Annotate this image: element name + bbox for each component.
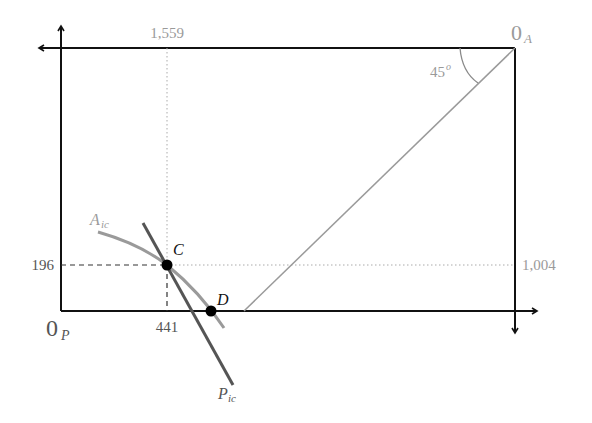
angle-arc <box>460 48 478 83</box>
svg-text:o: o <box>446 61 451 72</box>
top-x-value-label: 1,559 <box>150 25 184 41</box>
a-ic-label: A ic <box>89 211 109 230</box>
point-d-label: D <box>216 291 229 308</box>
svg-text:A: A <box>523 31 532 46</box>
svg-text:ic: ic <box>101 218 109 230</box>
box-axes <box>39 26 537 333</box>
edgeworth-box-diagram: 1,559 1,004 196 441 0 A 0 P 45 o A ic P … <box>0 0 592 423</box>
point-d <box>206 306 217 317</box>
svg-text:P: P <box>60 328 70 343</box>
svg-text:0: 0 <box>511 20 522 45</box>
bottom-x-value-label: 441 <box>156 319 179 335</box>
origin-producer-label: 0 P <box>46 315 70 343</box>
svg-text:45: 45 <box>430 64 445 80</box>
p-ic-label: P ic <box>217 385 236 404</box>
diagonal-45-line <box>244 48 515 311</box>
svg-text:A: A <box>89 211 100 228</box>
svg-text:ic: ic <box>228 392 236 404</box>
point-c-label: C <box>173 241 184 258</box>
svg-text:P: P <box>217 385 228 402</box>
left-y-value-label: 196 <box>32 257 55 273</box>
right-y-value-label: 1,004 <box>522 257 556 273</box>
angle-label: 45 o <box>430 61 451 80</box>
svg-text:0: 0 <box>46 315 58 341</box>
point-c <box>162 260 173 271</box>
origin-consumer-label: 0 A <box>511 20 532 46</box>
a-ic-curve <box>98 232 224 328</box>
